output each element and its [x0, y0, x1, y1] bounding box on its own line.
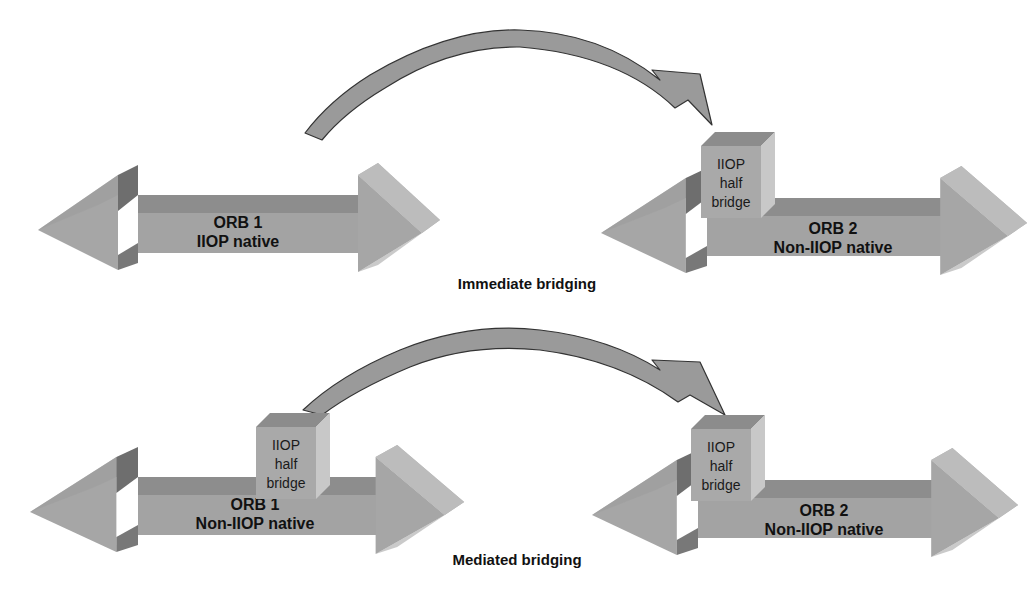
half-bridge-line2: half	[710, 458, 733, 474]
half-bridge-line1: IIOP	[272, 437, 300, 453]
orb2-label: ORB 2	[800, 502, 849, 519]
half-bridge-line1: IIOP	[707, 439, 735, 455]
half-bridge-box: IIOP half bridge	[701, 132, 775, 218]
orb1-native-label: Non-IIOP native	[196, 515, 315, 532]
orb2-native-label: Non-IIOP native	[774, 239, 893, 256]
half-bridge-line3: bridge	[702, 477, 741, 493]
caption-immediate-bridging: Immediate bridging	[458, 275, 596, 292]
orb2-double-arrow: ORB 2 Non-IIOP native	[601, 166, 1027, 275]
curved-arrow-icon	[303, 328, 725, 415]
orb2-label: ORB 2	[809, 220, 858, 237]
orb2-double-arrow: ORB 2 Non-IIOP native	[592, 448, 1018, 557]
half-bridge-line3: bridge	[267, 475, 306, 491]
bridging-diagram: ORB 1 IIOP native ORB 2 Non-IIOP native …	[0, 0, 1035, 591]
orb2-native-label: Non-IIOP native	[765, 521, 884, 538]
orb1-native-label: IIOP native	[197, 233, 280, 250]
half-bridge-line3: bridge	[712, 194, 751, 210]
half-bridge-line2: half	[275, 456, 298, 472]
caption-mediated-bridging: Mediated bridging	[452, 551, 581, 568]
orb1-label: ORB 1	[214, 214, 263, 231]
orb1-double-arrow: ORB 1 IIOP native	[38, 163, 440, 272]
section-immediate-bridging: ORB 1 IIOP native ORB 2 Non-IIOP native …	[38, 30, 1027, 292]
orb1-double-arrow: ORB 1 Non-IIOP native	[30, 445, 464, 554]
curved-arrow-icon	[305, 30, 712, 140]
half-bridge-box: IIOP half bridge	[256, 413, 330, 499]
half-bridge-box: IIOP half bridge	[691, 415, 765, 501]
section-mediated-bridging: ORB 1 Non-IIOP native IIOP half bridge O…	[30, 328, 1018, 568]
half-bridge-line1: IIOP	[717, 156, 745, 172]
half-bridge-line2: half	[720, 175, 743, 191]
